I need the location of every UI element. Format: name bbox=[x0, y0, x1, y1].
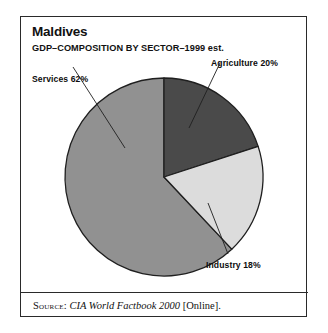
pie-slice-services[interactable] bbox=[65, 78, 232, 276]
source-medium: [Online]. bbox=[183, 300, 221, 311]
title-block: Maldives GDP–COMPOSITION BY SECTOR–1999 … bbox=[32, 25, 282, 53]
leader-line-agriculture bbox=[189, 63, 220, 128]
pie-slice-industry[interactable] bbox=[164, 146, 263, 249]
source-work-title: CIA World Factbook 2000 bbox=[70, 300, 181, 311]
source-citation: Source: CIA World Factbook 2000 [Online]… bbox=[33, 300, 221, 311]
pie-label-industry: Industry 18% bbox=[206, 260, 261, 270]
source-divider bbox=[21, 292, 308, 293]
pie-label-services: Services 62% bbox=[32, 74, 88, 84]
pie-slice-agriculture[interactable] bbox=[164, 78, 258, 177]
chart-subtitle: GDP–COMPOSITION BY SECTOR–1999 est. bbox=[32, 43, 282, 53]
leader-line-industry bbox=[208, 203, 228, 254]
page-title: Maldives bbox=[32, 25, 282, 40]
pie-label-agriculture: Agriculture 20% bbox=[211, 58, 278, 68]
figure-frame: Maldives GDP–COMPOSITION BY SECTOR–1999 … bbox=[20, 16, 307, 317]
source-label: Source: bbox=[33, 300, 67, 311]
